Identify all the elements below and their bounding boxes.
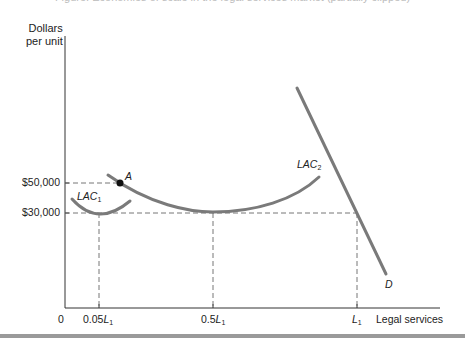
x-tick-05-number: 0.5 — [201, 313, 216, 325]
demand-label: D — [385, 278, 393, 290]
x-tick-005-number: 0.05 — [83, 313, 103, 325]
x-tick-label-005: 0.05L1 — [83, 313, 113, 326]
point-a-marker — [117, 180, 124, 187]
y-tick-label-50k: $50,000 — [0, 176, 60, 188]
lac2-curve — [108, 175, 319, 212]
x-tick-005-sub: 1 — [109, 319, 113, 326]
demand-line — [297, 88, 386, 274]
point-a-label: A — [125, 170, 132, 182]
x-tick-L1-sub: 1 — [358, 319, 362, 326]
x-tick-label-0: 0 — [58, 313, 64, 325]
x-tick-label-L1: L1 — [352, 313, 362, 326]
y-tick-label-30k: $30,000 — [0, 206, 60, 218]
x-tick-05-sub: 1 — [221, 319, 225, 326]
x-tick-label-05: 0.5L1 — [201, 313, 225, 326]
lac1-label-sub: 1 — [97, 196, 101, 203]
lac2-label-main: LAC — [297, 158, 317, 170]
x-axis-label: Legal services — [376, 313, 443, 325]
lac1-label-main: LAC — [77, 190, 97, 202]
footer-divider — [0, 334, 465, 338]
lac2-label: LAC2 — [297, 158, 321, 171]
chart-plot — [0, 0, 465, 341]
lac1-label: LAC1 — [77, 190, 101, 203]
lac2-label-sub: 2 — [317, 164, 321, 171]
